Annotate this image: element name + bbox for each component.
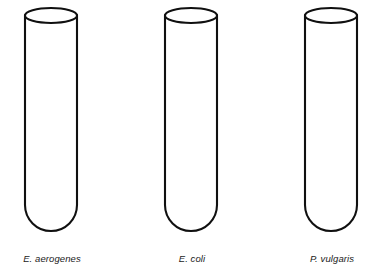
test-tube-3-body [305, 15, 357, 231]
test-tube-1-body [25, 15, 77, 231]
test-tube-2-rim [165, 8, 217, 23]
test-tube-2 [163, 7, 223, 247]
test-tube-1-drawing [23, 7, 83, 247]
test-tube-2-label: E. coli [147, 253, 237, 264]
test-tube-2-drawing [163, 7, 223, 247]
test-tube-3-label: P. vulgaris [287, 253, 377, 264]
test-tube-2-body [165, 15, 217, 231]
test-tube-3-drawing [303, 7, 363, 247]
figure-canvas: E. aerogenes E. coli P. vulgaris [0, 0, 381, 271]
test-tube-1-rim [25, 8, 77, 23]
test-tube-1-label: E. aerogenes [7, 253, 97, 264]
test-tube-1 [23, 7, 83, 247]
test-tube-3 [303, 7, 363, 247]
test-tube-3-rim [305, 8, 357, 23]
